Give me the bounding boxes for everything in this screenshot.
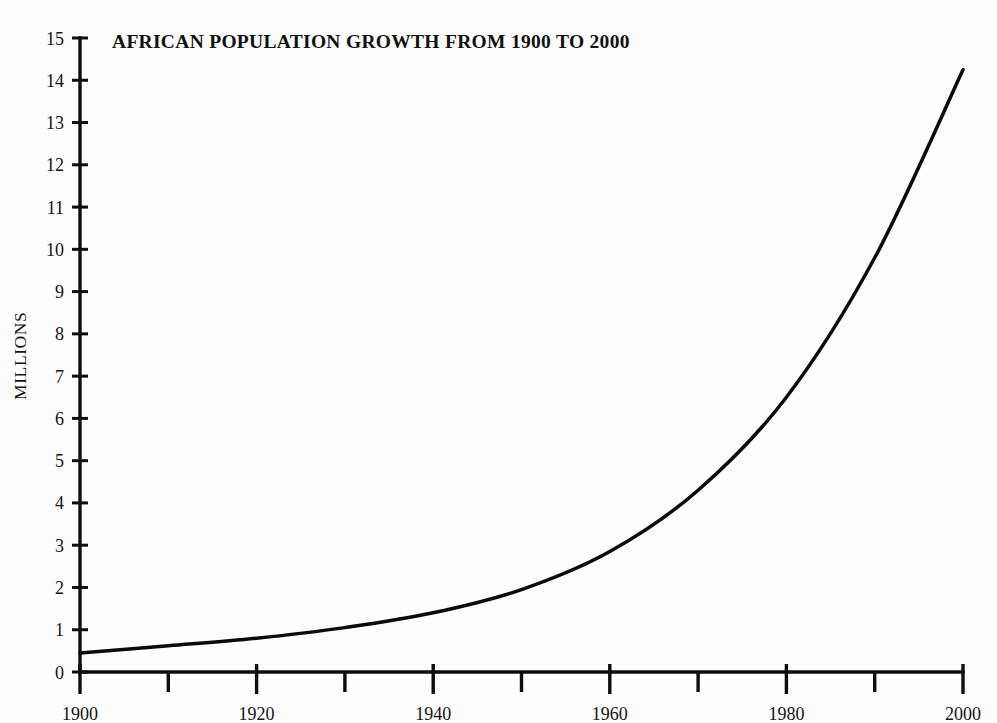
y-tick-label: 13 [46, 113, 64, 133]
x-tick-label: 1900 [62, 704, 98, 723]
y-tick-label: 9 [55, 282, 64, 302]
y-tick-label: 0 [55, 663, 64, 683]
y-tick-label: 1 [55, 620, 64, 640]
x-axis-ticks [80, 664, 963, 694]
y-tick-label: 5 [55, 451, 64, 471]
x-tick-label: 1940 [415, 704, 451, 723]
y-axis-tick-labels: 0123456789101112131415 [46, 29, 64, 683]
y-tick-label: 4 [55, 493, 64, 513]
y-tick-label: 14 [46, 71, 64, 91]
y-tick-label: 3 [55, 536, 64, 556]
y-tick-label: 10 [46, 240, 64, 260]
x-axis-tick-labels: 190019201940196019802000 [62, 704, 981, 723]
x-tick-label: 1960 [592, 704, 628, 723]
chart-canvas: AFRICAN POPULATION GROWTH FROM 1900 TO 2… [0, 0, 997, 723]
y-tick-label: 12 [46, 155, 64, 175]
x-tick-label: 1980 [768, 704, 804, 723]
chart-figure: AFRICAN POPULATION GROWTH FROM 1900 TO 2… [0, 0, 997, 723]
x-tick-label: 1920 [239, 704, 275, 723]
population-growth-curve [80, 70, 963, 653]
chart-title: AFRICAN POPULATION GROWTH FROM 1900 TO 2… [112, 31, 630, 52]
y-tick-label: 15 [46, 29, 64, 49]
y-tick-label: 7 [55, 367, 64, 387]
y-axis-title: MILLIONS [10, 312, 30, 400]
y-tick-label: 8 [55, 324, 64, 344]
x-tick-label: 2000 [945, 704, 981, 723]
y-tick-label: 11 [47, 198, 64, 218]
y-tick-label: 2 [55, 578, 64, 598]
y-tick-label: 6 [55, 409, 64, 429]
